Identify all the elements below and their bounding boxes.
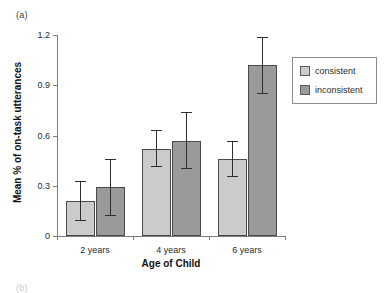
y-tick-label: 1.2 <box>37 30 50 40</box>
error-bar-cap-top <box>227 141 238 142</box>
error-bar-cap-bottom <box>257 93 268 94</box>
error-bar-cap-top <box>105 159 116 160</box>
error-bar-inconsistent-6-years <box>262 37 263 94</box>
error-bar-cap-bottom <box>181 168 192 169</box>
x-tick-mark <box>209 236 210 240</box>
legend-swatch-consistent <box>300 66 310 76</box>
x-group-label: 2 years <box>80 245 110 255</box>
plot-area: 00.30.60.91.2 2 years4 years6 years <box>57 35 285 236</box>
legend-swatch-inconsistent <box>300 85 310 95</box>
x-axis-title: Age of Child <box>57 258 285 269</box>
legend-item-consistent[interactable]: consistent <box>300 66 356 76</box>
x-group-label: 4 years <box>156 245 186 255</box>
x-tick-mark <box>57 236 58 240</box>
y-tick-label: 0.3 <box>37 181 50 191</box>
panel-label-b: (b) <box>16 283 28 293</box>
x-tick-mark <box>285 236 286 240</box>
legend-label-consistent: consistent <box>315 66 356 76</box>
error-bar-consistent-6-years <box>232 141 233 178</box>
error-bar-cap-bottom <box>227 176 238 177</box>
legend-label-inconsistent: inconsistent <box>315 85 363 95</box>
chart-legend: consistent inconsistent <box>292 57 377 104</box>
x-tick-mark <box>133 236 134 240</box>
error-bar-cap-top <box>181 112 192 113</box>
y-tick-label: 0 <box>45 231 50 241</box>
error-bar-cap-bottom <box>151 166 162 167</box>
error-bar-inconsistent-4-years <box>186 112 187 169</box>
x-group-label: 6 years <box>232 245 262 255</box>
error-bar-cap-top <box>151 130 162 131</box>
error-bar-consistent-2-years <box>80 181 81 221</box>
y-tick-label: 0.6 <box>37 131 50 141</box>
y-tick-label: 0.9 <box>37 80 50 90</box>
panel-label-a: (a) <box>16 10 28 20</box>
error-bar-consistent-4-years <box>156 130 157 167</box>
x-axis-line <box>57 236 286 237</box>
y-axis-title: Mean % of on-task utterances <box>12 38 23 228</box>
error-bar-cap-top <box>75 181 86 182</box>
error-bar-cap-bottom <box>75 220 86 221</box>
error-bar-cap-bottom <box>105 215 116 216</box>
error-bar-cap-top <box>257 37 268 38</box>
bar-series-container <box>57 35 285 236</box>
error-bar-inconsistent-2-years <box>110 159 111 216</box>
legend-item-inconsistent[interactable]: inconsistent <box>300 85 363 95</box>
